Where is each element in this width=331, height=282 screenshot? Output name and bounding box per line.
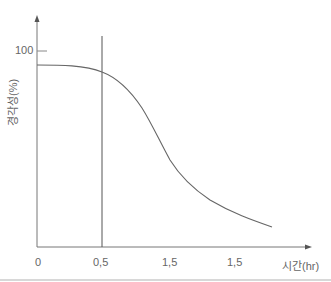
x-tick-label-0-5: 0,5	[93, 256, 108, 268]
x-tick-label-1-5a: 1,5	[162, 256, 177, 268]
x-tick-label-1-5b: 1,5	[227, 256, 242, 268]
y-axis-label: 경각성(%)	[4, 79, 20, 126]
y-tick-label-100: 100	[15, 44, 33, 56]
y-axis-arrow-icon	[35, 15, 40, 22]
x-axis-label: 시간(hr)	[282, 257, 319, 273]
bottom-divider	[0, 279, 331, 281]
chart-area: 100 경각성(%) 0 0,5 1,5 1,5 시간(hr)	[0, 0, 331, 282]
alertness-curve	[37, 65, 272, 227]
x-axis-arrow-icon	[305, 245, 312, 250]
chart-svg	[0, 0, 331, 282]
x-tick-label-0: 0	[35, 256, 41, 268]
